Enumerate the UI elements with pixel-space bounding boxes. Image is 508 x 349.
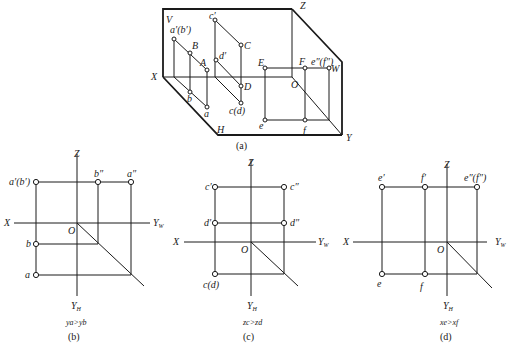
label-E: E [257,57,264,68]
label-c-d: c(d) [229,105,246,117]
label-Yw: YW [318,236,330,248]
condition-c: zc>zd [242,318,263,327]
label-Z: Z [74,148,80,159]
point-b [33,241,38,246]
caption-a: (a) [236,140,247,152]
bisector-45 [77,223,144,286]
label-e-dd-f-dd: e″(f″) [311,56,334,68]
label-c-d: c(d) [203,279,220,291]
point-a-dd [128,179,133,184]
point-c-dd [281,184,286,189]
point-a [33,272,38,277]
y-axis [292,77,342,135]
point-e-prime [379,184,384,189]
point-e [379,271,384,276]
label-Yh: YH [247,300,258,312]
label-Z: Z [444,159,450,170]
label-X: X [150,71,158,82]
label-b: b [26,238,31,249]
label-d-dd: d″ [290,217,300,228]
panel-c: Z X O YW YH c′ c″ d′ d″ c(d) zc>zd (c) [172,157,330,343]
point-e-dd-f-dd [474,184,479,189]
point-d-dd [281,220,286,225]
label-e: e [259,120,264,131]
point-f [303,118,307,122]
label-X: X [342,236,350,247]
proj-line [215,20,241,45]
label-Z: Z [248,157,254,168]
label-C: C [244,40,251,51]
caption-d: (d) [440,331,452,343]
point-f [422,271,427,276]
label-c-prime: c′ [209,10,216,21]
label-c-dd: c″ [290,181,299,192]
label-a-dd: a″ [127,168,137,179]
condition-b: ya>yb [65,318,87,327]
label-f-prime: f′ [421,172,427,183]
label-c-prime: c′ [205,181,212,192]
panel-d: Z X O YW YH e′ f′ e″(f″) e f xe>xf (d) [342,159,507,343]
label-e-prime: e′ [378,172,385,183]
label-a-prime-b-prime: a′(b′) [170,24,192,36]
proj-rect-ef [265,68,329,120]
point-b-dd [95,179,100,184]
caption-c: (c) [243,331,254,343]
point-C [239,43,243,47]
label-b: b [187,93,192,104]
label-e: e [377,278,382,289]
label-Yh: YH [443,300,454,312]
label-X: X [3,217,11,228]
point-f-prime [422,184,427,189]
label-f: f [420,281,424,292]
projection-diagram: V Z X O H Y W a′(b′) B A c′ C d′ D b a c… [0,0,508,349]
point-d-prime [212,220,217,225]
label-H: H [216,124,225,135]
label-X: X [172,236,180,247]
bisector-45 [251,242,298,286]
label-Y: Y [346,132,353,143]
point-c-d [212,271,217,276]
label-a: a [25,269,30,280]
label-Z: Z [300,0,306,11]
label-O: O [291,79,298,90]
point-A [205,68,209,72]
label-Yh: YH [71,300,82,312]
bisector-45 [447,242,492,288]
panel-b: Z X O YW YH a′(b′) b″ a″ b a ya>yb (b) [3,148,165,343]
point-e [263,118,267,122]
label-D: D [243,81,252,92]
label-Yw: YW [153,217,165,229]
label-b-dd: b″ [94,168,104,179]
label-O: O [68,225,75,236]
label-F: F [298,56,306,67]
label-B: B [192,40,198,51]
label-d-prime: d′ [219,50,227,61]
point-D [239,84,243,88]
label-d-prime: d′ [204,217,212,228]
panel-a: V Z X O H Y W a′(b′) B A c′ C d′ D b a c… [150,0,353,152]
label-O: O [437,244,444,255]
label-A: A [199,57,207,68]
condition-d: xe>xf [439,318,460,327]
label-a-prime-b-prime: a′(b′) [9,176,31,188]
proj-line [215,77,241,103]
label-a: a [204,108,209,119]
point-B [188,51,192,55]
label-e-dd-f-dd: e″(f″) [464,172,487,184]
v-plane-frame [163,9,292,77]
point-a-prime [172,37,176,41]
point-a-prime-b-prime [33,179,38,184]
point-d-prime [214,58,218,62]
point-c-prime [212,184,217,189]
label-Yw: YW [495,236,507,248]
label-O: O [241,244,248,255]
caption-b: (b) [68,331,80,343]
